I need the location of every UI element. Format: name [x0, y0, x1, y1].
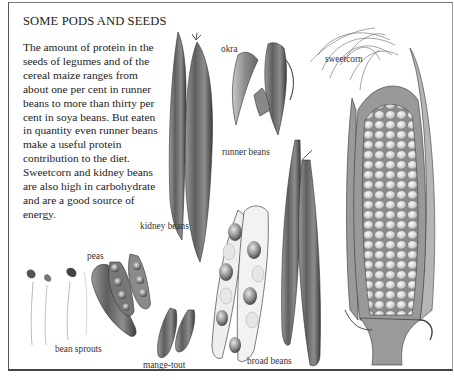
body-line: contribution to the diet.: [23, 152, 173, 166]
body-line: and are a good source of: [23, 194, 173, 208]
label-sweetcorn: sweetcorn: [325, 54, 363, 64]
body-line: cent in soya beans. But eaten: [23, 111, 173, 125]
sweetcorn-illustration: [345, 48, 435, 365]
body-line: Sweetcorn and kidney beans: [23, 166, 173, 180]
label-kidney-beans: kidney beans: [140, 221, 189, 231]
body-line: energy.: [23, 208, 173, 222]
label-runner-beans: runner beans: [222, 147, 270, 157]
okra-illustration: [232, 43, 293, 135]
label-peas: peas: [87, 251, 104, 261]
body-line: seeds of legumes and of the: [23, 55, 173, 69]
peas-illustration: [92, 254, 151, 336]
body-line: in quantity even runner beans: [23, 124, 173, 138]
runner-beans-illustration: [282, 140, 321, 366]
body-line: beans to more than thirty per: [23, 97, 173, 111]
body-paragraph: The amount of protein in the seeds of le…: [23, 41, 173, 222]
label-mange-tout: mange-tout: [143, 360, 185, 370]
body-line: cereal maize ranges from: [23, 69, 173, 83]
body-line: The amount of protein in the: [23, 41, 173, 55]
body-line: make a useful protein: [23, 138, 173, 152]
label-bean-sprouts: bean sprouts: [55, 344, 102, 354]
label-okra: okra: [221, 44, 238, 54]
body-line: about one per cent in runner: [23, 83, 173, 97]
broad-beans-illustration: [212, 206, 268, 362]
body-line: are also high in carbohydrate: [23, 180, 173, 194]
mange-tout-illustration: [158, 308, 195, 358]
page-title: SOME PODS AND SEEDS: [23, 14, 167, 29]
bean-sprouts-illustration: [27, 268, 87, 345]
label-broad-beans: broad beans: [247, 356, 292, 366]
